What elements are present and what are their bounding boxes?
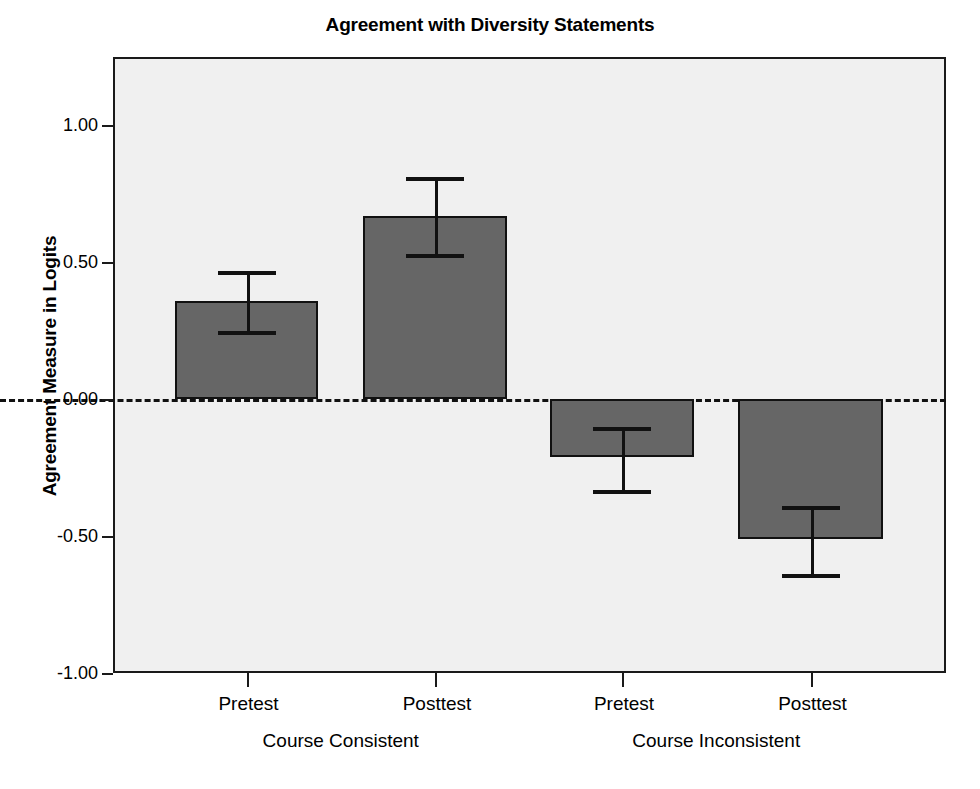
y-axis-tick: 0.00	[102, 399, 113, 401]
y-axis-tick: 0.50	[102, 262, 113, 264]
error-bar-cap-lower	[406, 254, 464, 258]
error-bar-cap-upper	[593, 427, 651, 431]
error-bar-cap-lower	[782, 574, 840, 578]
y-axis-title: Agreement Measure in Logits	[39, 156, 61, 576]
error-bar-cap-lower	[593, 490, 651, 494]
error-bar-stem	[811, 506, 814, 574]
y-axis-tick: 1.00	[102, 125, 113, 127]
chart-figure: Agreement with Diversity Statements Agre…	[0, 0, 980, 789]
error-bar-stem	[622, 427, 625, 490]
error-bar-stem	[435, 177, 438, 254]
error-bar-stem	[247, 271, 250, 331]
y-axis-tick-label: 0.50	[63, 252, 98, 273]
y-axis-tick-label: 1.00	[63, 115, 98, 136]
x-axis-tick-label: Posttest	[337, 693, 537, 715]
error-bar-cap-upper	[406, 177, 464, 181]
y-axis-tick-label: 0.00	[63, 389, 98, 410]
x-axis-group-label: Course Consistent	[181, 730, 501, 752]
x-axis-tick-label: Pretest	[149, 693, 349, 715]
x-axis-tick: Posttest	[435, 673, 437, 687]
x-axis-tick: Pretest	[622, 673, 624, 687]
y-axis-tick-label: -1.00	[57, 663, 98, 684]
y-axis-tick-label: -0.50	[57, 526, 98, 547]
y-axis-tick: -0.50	[102, 536, 113, 538]
x-axis-group-label: Course Inconsistent	[556, 730, 876, 752]
x-axis-tick: Posttest	[811, 673, 813, 687]
error-bar-cap-upper	[782, 506, 840, 510]
x-axis-tick: Pretest	[247, 673, 249, 687]
x-axis-tick-label: Posttest	[713, 693, 913, 715]
error-bar-cap-upper	[218, 271, 276, 275]
y-axis-tick: -1.00	[102, 673, 113, 675]
chart-title: Agreement with Diversity Statements	[0, 14, 980, 36]
plot-area: 1.000.500.00-0.50-1.00PretestPosttestPre…	[113, 57, 946, 673]
x-axis-tick-label: Pretest	[524, 693, 724, 715]
error-bar-cap-lower	[218, 331, 276, 335]
